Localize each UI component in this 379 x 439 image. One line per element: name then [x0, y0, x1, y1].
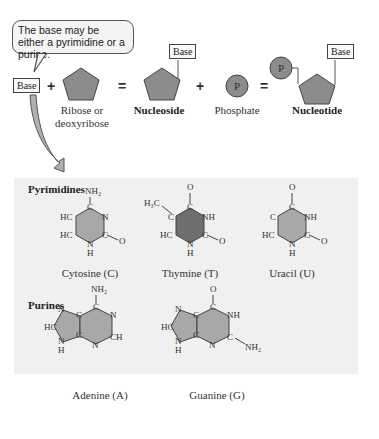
sugar-label-line1: Ribose or [52, 104, 112, 117]
connector-lines [0, 0, 379, 180]
svg-text:HC: HC [44, 322, 57, 332]
svg-text:C: C [76, 310, 82, 320]
svg-text:N: N [110, 310, 117, 320]
sugar-label: Ribose or deoxyribose [52, 104, 112, 130]
svg-text:NH₂: NH₂ [91, 284, 107, 294]
svg-text:O: O [321, 236, 328, 246]
svg-text:C: C [187, 202, 193, 212]
svg-text:HC: HC [60, 212, 73, 222]
adenine-structure: NH₂ CNCHN CCNHCNH [44, 284, 123, 355]
plus-sign-2: + [196, 78, 204, 94]
svg-text:H: H [289, 248, 296, 258]
nucleotide-phosphate-glyph: P [275, 62, 287, 74]
molecule-name-uracil: Uracil (U) [242, 267, 342, 279]
svg-text:N: N [92, 340, 99, 350]
svg-text:H: H [87, 248, 94, 258]
svg-text:O: O [119, 236, 126, 246]
svg-text:N: N [209, 340, 216, 350]
svg-text:H: H [187, 248, 194, 258]
nucleoside-base-box: Base [169, 44, 196, 59]
svg-text:HC: HC [161, 322, 174, 332]
svg-text:H: H [58, 345, 65, 355]
svg-text:NH₂: NH₂ [85, 186, 101, 196]
svg-text:HC: HC [160, 230, 173, 240]
svg-text:C: C [193, 310, 199, 320]
svg-text:C: C [76, 330, 82, 340]
svg-text:C: C [289, 202, 295, 212]
svg-text:N: N [102, 212, 109, 222]
svg-text:CH: CH [110, 332, 123, 342]
equals-sign-2: = [260, 78, 268, 94]
svg-text:NH: NH [202, 212, 215, 222]
cytosine-structure: NH₂ CNCHCHCNH O [60, 186, 126, 258]
svg-text:NH: NH [227, 310, 240, 320]
svg-text:H₃C: H₃C [144, 198, 160, 208]
svg-text:C: C [193, 330, 199, 340]
sugar-label-line2: deoxyribose [52, 117, 112, 130]
svg-text:N: N [175, 304, 182, 314]
svg-text:H: H [175, 345, 182, 355]
nucleoside-label: Nucleoside [128, 104, 190, 116]
molecule-name-thymine: Thymine (T) [140, 267, 240, 279]
svg-text:NH: NH [304, 212, 317, 222]
phosphate-glyph: P [231, 80, 243, 92]
base-box: Base [13, 78, 40, 93]
svg-text:C: C [87, 202, 93, 212]
svg-text:O: O [187, 182, 194, 192]
svg-text:C: C [210, 302, 216, 312]
nucleotide-base-box: Base [327, 44, 354, 59]
phosphate-label: Phosphate [212, 104, 262, 116]
svg-text:HC: HC [60, 230, 73, 240]
svg-text:HC: HC [262, 230, 275, 240]
svg-text:N: N [58, 304, 65, 314]
svg-text:O: O [289, 182, 296, 192]
svg-text:O: O [219, 236, 226, 246]
nucleotide-label: Nucleotide [286, 104, 348, 116]
svg-text:C: C [227, 332, 233, 342]
svg-text:O: O [210, 284, 217, 294]
molecule-name-adenine: Adenine (A) [50, 389, 150, 401]
uracil-structure: O CNHCCHCNH O [262, 182, 328, 258]
svg-text:C: C [93, 302, 99, 312]
plus-sign: + [47, 78, 55, 94]
svg-text:C: C [270, 212, 276, 222]
equals-sign: = [118, 78, 126, 94]
molecule-name-guanine: Guanine (G) [167, 389, 267, 401]
molecule-name-cytosine: Cytosine (C) [40, 267, 140, 279]
guanine-structure: O CNHCN NH₂ CCNHCNH [161, 284, 261, 355]
thymine-structure: O CNHCCHCNH H₃C O [144, 182, 226, 258]
svg-text:NH₂: NH₂ [245, 342, 261, 352]
